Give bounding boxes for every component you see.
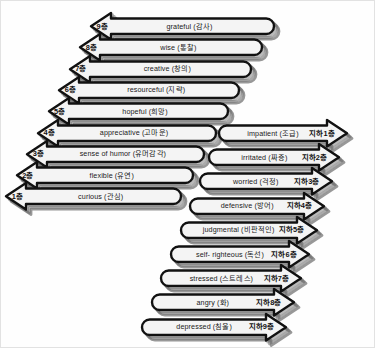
floor-row[interactable]: self- righteous (독선)지하6층 [171,241,311,268]
floor-number: 1층 [3,189,31,205]
floor-label: sense of humor (유머감각) [51,146,194,162]
floor-number: 지하1층 [305,126,339,142]
floor-label: wise (통찰) [104,40,252,56]
floor-number: 3층 [24,146,52,162]
floor-label: appreciative (고마운) [62,125,206,141]
floor-number: 지하5층 [275,222,309,238]
floor-number: 8층 [77,40,105,56]
floor-label: hopeful (희망) [73,104,218,120]
floor-label: stressed (스트레스) [169,271,273,287]
floor-number: 지하8층 [252,295,286,311]
floor-number: 지하4층 [282,198,316,214]
floor-number: 지하3층 [290,174,324,190]
floor-number: 지하7층 [259,271,293,287]
floor-row[interactable]: curious (관심)1층 [4,183,181,210]
floor-label: resourceful (지략) [83,82,229,98]
floor-row[interactable]: irritated (짜증)지하2층 [209,144,341,171]
floor-row[interactable]: depressed (침울)지하9층 [142,314,288,341]
floor-number: 지하9층 [244,319,278,335]
floor-label: curious (관심) [30,189,171,205]
floor-row[interactable]: impatient (조급)지하1층 [219,120,349,147]
floor-number: 7층 [67,61,95,77]
floor-number: 9층 [88,19,116,35]
floor-label: self- righteous (독선) [179,247,281,263]
floor-row[interactable]: stressed (스트레스)지하7층 [161,265,303,292]
floor-row[interactable]: judgmental (비판적인)지하5층 [181,217,319,244]
floor-number: 4층 [35,125,63,141]
floor-row[interactable]: worried (걱정)지하3층 [200,168,334,195]
floor-label: grateful (감사) [115,19,264,35]
floor-number: 5층 [46,104,74,120]
floor-label: flexible (유연) [41,168,183,184]
floor-row[interactable]: defensive (방어)지하4층 [190,193,326,220]
floor-number: 지하6층 [267,247,301,263]
floor-label: judgmental (비판적인) [189,222,289,238]
floor-row[interactable]: angry (화)지하8층 [152,289,296,316]
floor-number: 지하2층 [297,150,331,166]
floor-label: angry (화) [160,295,266,311]
diagram-canvas: grateful (감사)9층wise (통찰)8층creative (창의)7… [0,0,375,348]
floor-number: 6층 [56,82,84,98]
floor-label: depressed (침울) [150,319,258,335]
floor-number: 2층 [14,168,42,184]
floor-label: creative (창의) [94,61,241,77]
